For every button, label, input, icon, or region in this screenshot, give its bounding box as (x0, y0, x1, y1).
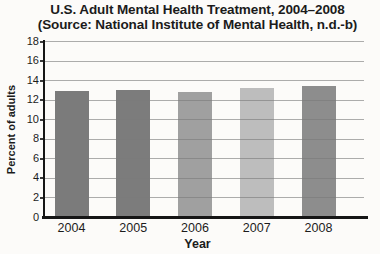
x-tick-label-2007: 2007 (227, 221, 287, 235)
x-axis-title: Year (45, 237, 350, 251)
chart-title: U.S. Adult Mental Health Treatment, 2004… (15, 2, 380, 32)
gridline-18 (45, 41, 364, 42)
gridline-2 (45, 197, 364, 198)
x-tick-label-2004: 2004 (42, 221, 102, 235)
y-tick-label-18: 18 (0, 35, 39, 48)
gridline-4 (45, 178, 364, 179)
y-tick-label-16: 16 (0, 54, 39, 67)
gridline-10 (45, 119, 364, 120)
plot-area (45, 41, 364, 217)
x-axis-line (42, 216, 368, 219)
gridline-14 (45, 80, 364, 81)
chart-title-line1: U.S. Adult Mental Health Treatment, 2004… (15, 2, 380, 17)
y-axis-line (43, 40, 45, 218)
y-tick-label-12: 12 (0, 93, 39, 106)
y-tick-label-8: 8 (0, 132, 39, 145)
y-tick-label-0: 0 (0, 211, 39, 224)
bar-chart-figure: U.S. Adult Mental Health Treatment, 2004… (0, 0, 380, 254)
y-tick-label-14: 14 (0, 74, 39, 87)
gridline-12 (45, 100, 364, 101)
x-tick-label-2006: 2006 (165, 221, 225, 235)
x-tick-label-2008: 2008 (289, 221, 349, 235)
x-tick-label-2005: 2005 (103, 221, 163, 235)
y-tick-label-2: 2 (0, 191, 39, 204)
gridline-6 (45, 158, 364, 159)
y-tick-label-10: 10 (0, 113, 39, 126)
y-tick-label-6: 6 (0, 152, 39, 165)
chart-title-line2: (Source: National Institute of Mental He… (15, 17, 380, 32)
gridline-8 (45, 139, 364, 140)
y-tick-label-4: 4 (0, 171, 39, 184)
gridline-16 (45, 61, 364, 62)
